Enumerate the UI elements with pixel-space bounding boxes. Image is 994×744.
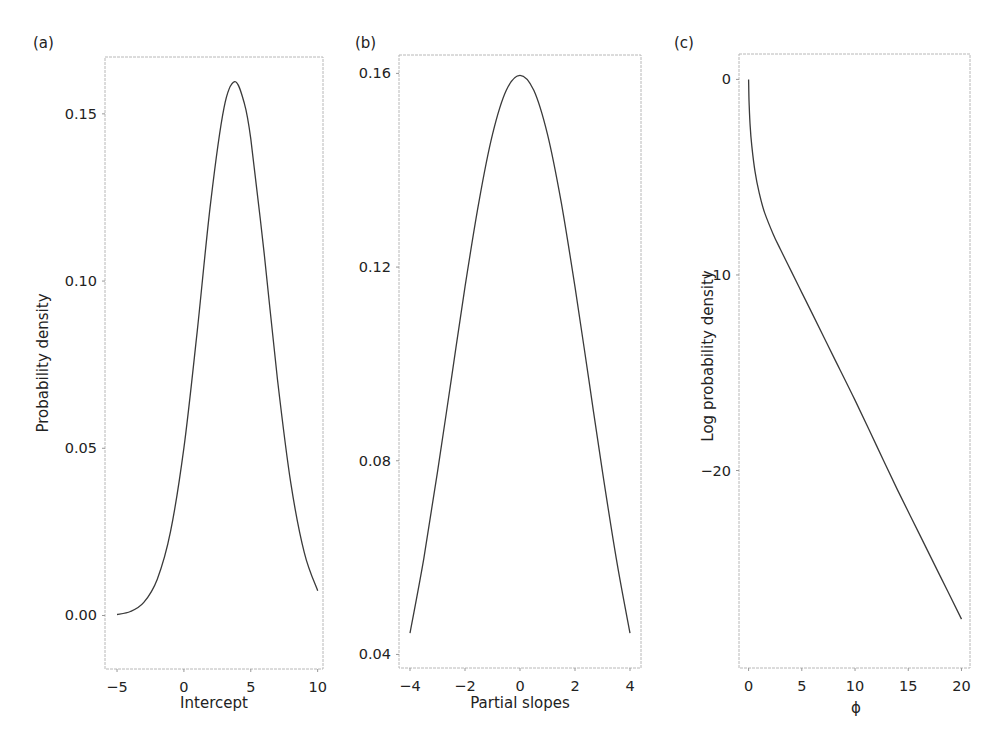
y-tick-label: −20	[700, 463, 731, 479]
x-axis-label: Partial slopes	[470, 694, 570, 712]
x-axis: −50510	[106, 669, 327, 695]
y-tick-label: 0.16	[359, 65, 391, 81]
x-axis-label: Intercept	[180, 694, 248, 712]
x-tick-label: 0	[179, 679, 188, 695]
x-tick-label: 15	[899, 678, 917, 694]
x-tick-label: 5	[797, 678, 806, 694]
y-axis-label: Probability density	[34, 293, 52, 432]
y-axis: 0.040.080.120.16	[359, 65, 399, 662]
density-curve	[410, 75, 630, 633]
plot-frame	[739, 54, 970, 668]
panel-label: (c)	[674, 34, 694, 52]
y-tick-label: 0.08	[359, 453, 391, 469]
x-tick-label: 20	[952, 678, 970, 694]
log-density-curve	[749, 79, 962, 619]
x-tick-label: 5	[246, 679, 255, 695]
y-tick-label: 0	[722, 71, 731, 87]
x-tick-label: −2	[454, 678, 475, 694]
x-axis-label: ϕ	[851, 699, 861, 717]
density-curve	[117, 82, 318, 615]
panel-c: (c) 0−10−20 05101520 ϕ Log probability d…	[674, 34, 971, 717]
panel-label: (a)	[33, 34, 54, 52]
x-tick-label: −5	[106, 679, 127, 695]
x-tick-label: 10	[308, 679, 326, 695]
y-tick-label: 0.04	[359, 646, 391, 662]
figure: (a) 0.000.050.100.15 −50510 Intercept Pr…	[0, 0, 994, 744]
panel-label: (b)	[355, 34, 376, 52]
y-tick-label: 0.12	[359, 259, 391, 275]
x-tick-label: 2	[570, 678, 579, 694]
y-tick-label: 0.15	[65, 106, 97, 122]
y-tick-label: 0.00	[65, 607, 97, 623]
y-tick-label: 0.05	[65, 440, 97, 456]
plot-frame	[399, 55, 641, 668]
x-tick-label: 10	[846, 678, 864, 694]
x-tick-label: −4	[399, 678, 420, 694]
panel-a: (a) 0.000.050.100.15 −50510 Intercept Pr…	[33, 34, 327, 712]
plot-frame	[105, 57, 323, 669]
x-axis: −4−2024	[399, 668, 634, 694]
y-axis-label: Log probability density	[699, 270, 717, 441]
x-tick-label: 0	[744, 678, 753, 694]
panel-b: (b) 0.040.080.120.16 −4−2024 Partial slo…	[355, 34, 641, 712]
x-tick-label: 4	[625, 678, 634, 694]
x-axis: 05101520	[744, 668, 971, 694]
y-axis: 0.000.050.100.15	[65, 106, 105, 624]
y-tick-label: 0.10	[65, 273, 97, 289]
x-tick-label: 0	[515, 678, 524, 694]
